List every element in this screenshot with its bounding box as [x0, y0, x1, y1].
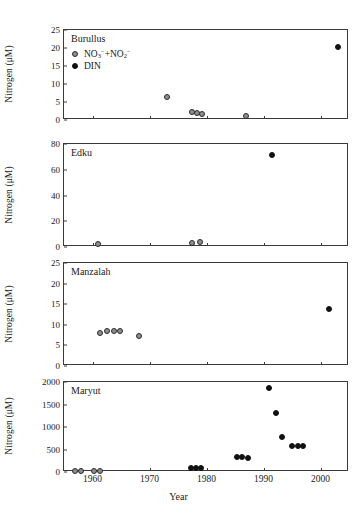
data-point-din: [335, 44, 341, 50]
x-tick-label: 1970: [140, 470, 159, 484]
y-tick-mark: [64, 304, 67, 305]
y-tick-label: 20: [51, 216, 64, 226]
y-tick-mark: [64, 221, 67, 222]
x-tick-label: 2000: [311, 470, 330, 484]
y-axis-label-text: Nitrogen (μM): [4, 285, 14, 342]
legend-item-din: DIN: [71, 61, 131, 71]
x-tick-mark: [264, 116, 265, 119]
legend-label-din: DIN: [84, 61, 101, 71]
y-tick-mark: [64, 404, 67, 405]
y-axis-label-text: Nitrogen (μM): [4, 166, 14, 223]
panel-title: Manzalah: [71, 266, 110, 277]
plot-area-manzalah: Manzalah0510152025: [63, 262, 348, 365]
y-tick-label: 10: [51, 320, 64, 330]
y-tick-mark: [64, 120, 67, 121]
y-tick-mark: [64, 427, 67, 428]
x-tick-mark: [207, 243, 208, 246]
data-point-din: [198, 465, 204, 471]
y-axis-label: Nitrogen (μM): [0, 381, 18, 471]
x-tick-mark: [321, 243, 322, 246]
y-tick-mark: [64, 382, 67, 383]
x-axis-title: Year: [0, 491, 357, 502]
y-tick-label: 0: [56, 115, 65, 125]
y-axis-label: Nitrogen (μM): [0, 262, 18, 365]
data-point-no3-no2: [111, 328, 117, 334]
data-point-no3-no2: [164, 94, 170, 100]
x-tick-mark: [321, 362, 322, 365]
data-point-din: [300, 443, 306, 449]
figure-four-panel-nitrogen-scatter: Nitrogen (μM)BurullusNO3−+NO2−DIN0510152…: [0, 0, 357, 532]
x-tick-label: 1990: [254, 470, 273, 484]
x-tick-mark: [207, 362, 208, 365]
y-axis-label-text: Nitrogen (μM): [4, 45, 14, 102]
y-tick-mark: [64, 283, 67, 284]
y-tick-mark: [64, 30, 67, 31]
y-tick-mark: [64, 263, 67, 264]
y-tick-label: 1500: [42, 400, 64, 410]
y-tick-mark: [64, 102, 67, 103]
y-tick-mark: [64, 324, 67, 325]
y-tick-label: 10: [51, 79, 64, 89]
y-tick-mark: [64, 195, 67, 196]
plot-area-maryut: Maryut0500100015002000196019701980199020…: [63, 381, 348, 471]
panel-title: Edku: [71, 147, 92, 158]
legend-item-no3-no2: NO3−+NO2−: [71, 48, 131, 59]
data-point-din: [273, 410, 279, 416]
plot-area-burullus: BurullusNO3−+NO2−DIN0510152025: [63, 29, 348, 119]
y-tick-mark: [64, 449, 67, 450]
y-tick-label: 25: [51, 258, 64, 268]
data-point-no3-no2: [197, 239, 203, 245]
data-point-no3-no2: [117, 328, 123, 334]
y-tick-label: 40: [51, 191, 64, 201]
data-point-no3-no2: [97, 330, 103, 336]
y-axis-label-text: Nitrogen (μM): [4, 397, 14, 454]
data-point-din: [269, 152, 275, 158]
panel-title: Maryut: [71, 385, 100, 396]
y-tick-mark: [64, 169, 67, 170]
y-tick-label: 15: [51, 299, 64, 309]
legend-label-no3-no2: NO3−+NO2−: [84, 48, 131, 59]
x-tick-mark: [264, 243, 265, 246]
open-circle-icon: [71, 50, 81, 58]
data-point-no3-no2: [97, 468, 103, 474]
data-point-din: [245, 455, 251, 461]
y-tick-label: 15: [51, 61, 64, 71]
data-point-no3-no2: [136, 333, 142, 339]
y-tick-mark: [64, 366, 67, 367]
legend: NO3−+NO2−DIN: [71, 46, 131, 71]
data-point-no3-no2: [243, 113, 249, 119]
panel-maryut: Nitrogen (μM)Maryut050010001500200019601…: [0, 381, 357, 471]
x-tick-mark: [150, 243, 151, 246]
data-point-no3-no2: [95, 241, 101, 247]
y-tick-label: 60: [51, 165, 64, 175]
x-tick-mark: [93, 243, 94, 246]
x-tick-mark: [93, 362, 94, 365]
data-point-din: [266, 385, 272, 391]
y-tick-label: 20: [51, 279, 64, 289]
data-point-no3-no2: [104, 328, 110, 334]
y-tick-mark: [64, 247, 67, 248]
x-tick-label: 1980: [197, 470, 216, 484]
y-tick-mark: [64, 48, 67, 49]
y-axis-label: Nitrogen (μM): [0, 29, 18, 119]
y-tick-mark: [64, 345, 67, 346]
y-tick-label: 25: [51, 25, 64, 35]
x-tick-mark: [321, 116, 322, 119]
y-tick-label: 20: [51, 43, 64, 53]
y-tick-label: 1000: [42, 422, 64, 432]
x-tick-mark: [150, 116, 151, 119]
y-tick-label: 0: [56, 361, 65, 371]
y-tick-mark: [64, 472, 67, 473]
y-tick-label: 5: [56, 97, 65, 107]
data-point-din: [279, 434, 285, 440]
y-tick-label: 500: [47, 445, 65, 455]
data-point-no3-no2: [189, 240, 195, 246]
y-tick-label: 80: [51, 139, 64, 149]
data-point-no3-no2: [78, 468, 84, 474]
x-tick-mark: [93, 116, 94, 119]
y-tick-label: 5: [56, 340, 65, 350]
x-tick-mark: [207, 116, 208, 119]
y-tick-label: 0: [56, 242, 65, 252]
x-tick-mark: [150, 362, 151, 365]
y-tick-label: 2000: [42, 377, 64, 387]
